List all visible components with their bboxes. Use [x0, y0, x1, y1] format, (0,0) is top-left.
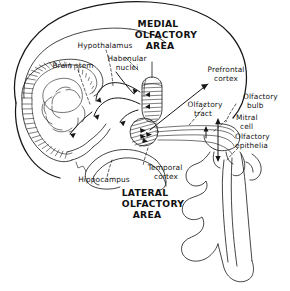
label-olfactory-epithelia-line1: Olfactory	[235, 132, 270, 141]
diagram-canvas: Hypothalamus Brain stem Habenular nuclei…	[0, 0, 290, 291]
label-habenular-nuclei-line2: nuclei	[116, 63, 139, 72]
label-hippocampus: Hippocampus	[78, 175, 130, 184]
label-temporal-cortex-line2: cortex	[154, 172, 178, 181]
label-mitral-cell-line2: cell	[240, 122, 253, 131]
label-medial-olfactory-area-line1: MEDIAL	[138, 18, 179, 29]
label-olfactory-tract-line1: Olfactory	[188, 100, 223, 109]
label-medial-olfactory-area-line2: OLFACTORY	[135, 29, 197, 40]
label-prefrontal-cortex-line1: Prefrontal	[208, 65, 245, 74]
label-hypothalamus: Hypothalamus	[78, 41, 133, 50]
label-medial-olfactory-area-line3: AREA	[146, 40, 175, 51]
label-lateral-olfactory-area-line1: LATERAL	[122, 187, 169, 198]
label-lateral-olfactory-area-line2: OLFACTORY	[122, 198, 184, 209]
label-brain-stem: Brain stem	[52, 61, 93, 70]
label-habenular-nuclei-line1: Habenular	[107, 54, 147, 63]
label-mitral-cell-line1: Mitral	[236, 113, 258, 122]
label-olfactory-bulb-line1: Olfactory	[243, 92, 278, 101]
label-olfactory-bulb-line2: bulb	[247, 101, 264, 110]
label-temporal-cortex-line1: Temporal	[147, 163, 183, 172]
label-prefrontal-cortex-line2: cortex	[214, 74, 238, 83]
label-olfactory-epithelia-line2: epithelia	[235, 141, 268, 150]
label-olfactory-tract-line2: tract	[194, 109, 212, 118]
olfactory-pathways-figure: Hypothalamus Brain stem Habenular nuclei…	[0, 0, 290, 291]
label-lateral-olfactory-area-line3: AREA	[133, 209, 162, 220]
